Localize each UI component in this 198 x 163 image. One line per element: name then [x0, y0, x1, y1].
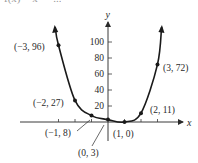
point-label: (−3, 96): [14, 42, 45, 53]
data-point: [106, 118, 110, 122]
x-axis-label: x: [186, 117, 192, 128]
y-tick-label: 60: [95, 69, 105, 79]
point-label: (−1, 8): [45, 128, 71, 139]
point-label: (0, 3): [78, 148, 99, 159]
point-label: (2, 11): [150, 105, 175, 116]
y-tick-label: 20: [95, 101, 105, 111]
y-tick-label: 40: [95, 85, 105, 95]
data-point: [57, 43, 61, 47]
curve-arrow-right: [158, 25, 164, 33]
point-label: (−2, 27): [33, 98, 64, 109]
data-point: [156, 62, 160, 66]
y-tick-label: 100: [90, 37, 105, 47]
point-label: (1, 0): [113, 129, 134, 140]
data-point: [73, 98, 77, 102]
function-graph: xy 20406080100 (−3, 96)(−2, 27)(−1, 8)(0…: [0, 0, 198, 163]
data-point: [139, 111, 143, 115]
curve-arrow-left: [52, 25, 58, 33]
leader-line: [92, 125, 104, 146]
y-axis-label: y: [105, 9, 111, 20]
y-tick-label: 80: [95, 53, 105, 63]
point-label: (3, 72): [163, 63, 188, 74]
axes: xy: [20, 9, 192, 141]
data-point: [90, 114, 94, 118]
data-point: [123, 120, 127, 124]
